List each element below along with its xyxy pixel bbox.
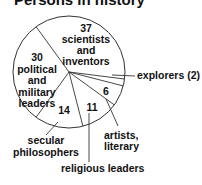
- label-secular: secularphilosophers: [13, 134, 79, 158]
- label-explorers: explorers (2): [137, 69, 200, 81]
- label-religious: religious leaders: [61, 162, 145, 174]
- number-secular: 14: [58, 104, 70, 116]
- chart-title: Persons in history: [14, 0, 146, 8]
- pie-chart: Persons in history 37scientistsandinvent…: [0, 0, 202, 185]
- number-artists: 6: [103, 85, 109, 97]
- label-artists: artists,literary: [104, 129, 139, 152]
- number-religious: 11: [86, 101, 97, 113]
